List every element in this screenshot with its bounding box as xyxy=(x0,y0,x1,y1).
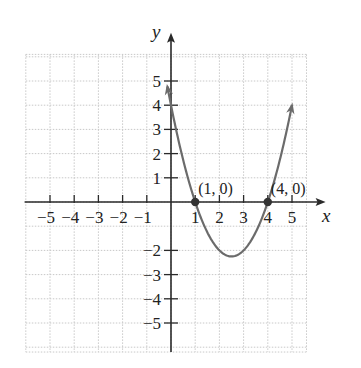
x-tick-label: 5 xyxy=(288,208,297,227)
x-axis-label: x xyxy=(321,205,331,226)
x-tick-label: 3 xyxy=(239,208,248,227)
intercept-point xyxy=(191,198,199,206)
x-tick-label: 2 xyxy=(215,208,224,227)
y-tick-label: 5 xyxy=(153,72,162,91)
parabola-curve xyxy=(165,84,295,257)
y-tick-label: −5 xyxy=(143,314,161,333)
y-tick-label: 3 xyxy=(153,120,162,139)
y-axis-label: y xyxy=(150,21,161,42)
intercept-point xyxy=(264,198,272,206)
x-tick-label: −1 xyxy=(134,208,152,227)
intercept-point-label: (1, 0) xyxy=(198,180,233,198)
parabola-line xyxy=(167,87,292,257)
y-tick-label: −3 xyxy=(143,266,161,285)
y-tick-label: 4 xyxy=(153,96,162,115)
x-tick-label: −2 xyxy=(110,208,128,227)
intercept-point-label: (4, 0) xyxy=(271,180,306,198)
y-tick-label: −2 xyxy=(143,241,161,260)
x-tick-label: −5 xyxy=(37,208,55,227)
parabola-graph: −5−4−3−2−11234554321−2−3−4−5 (1, 0)(4, 0… xyxy=(0,0,361,368)
y-tick-label: −4 xyxy=(143,290,162,309)
y-tick-label: 2 xyxy=(153,145,162,164)
x-tick-label: −3 xyxy=(85,208,103,227)
x-tick-label: −4 xyxy=(61,208,80,227)
y-tick-label: 1 xyxy=(153,169,162,188)
